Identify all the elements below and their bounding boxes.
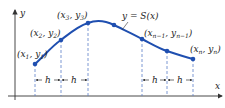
spacing-left: h h [36,75,87,85]
y-axis-label: y [19,8,26,18]
point-label-3: (x3, y3) [57,10,88,21]
node-point-1 [33,62,38,67]
spline-diagram: y x (x1, y1) (x2, y2) (x3, y3) (xn−1, yn… [0,0,225,108]
h-label-2: h [71,75,77,85]
node-point-3 [86,21,91,26]
spacing-right: h h [143,75,192,85]
node-point-n [191,57,196,62]
node-point-n-mid [165,49,170,54]
x-axis-label: x [215,81,220,91]
h-label-1: h [45,75,51,85]
point-label-n-1: (xn−1, yn−1) [144,28,193,39]
h-label-4: h [177,75,183,85]
h-label-3: h [152,75,158,85]
node-point-4 [112,23,117,28]
curve-label: y = S(x) [121,11,159,21]
point-label-n: (xn, yn) [190,44,221,55]
point-label-1: (x1, y1) [17,49,48,60]
curve-label-leader [122,22,128,30]
node-point-2 [59,38,64,43]
point-label-2: (x2, y2) [30,28,61,39]
